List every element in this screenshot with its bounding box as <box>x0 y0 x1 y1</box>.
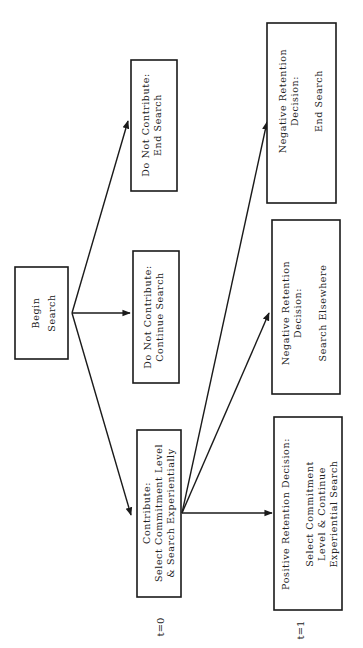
node-neg-retention-elsewhere: Negative Retention Decision: Search Else… <box>272 220 340 394</box>
node-neg-elsewhere-line-4: Search Elsewhere <box>317 265 328 362</box>
node-dnc-continue-line-2: Continue Search <box>154 272 165 362</box>
node-neg-elsewhere-line-2: Decision: <box>292 288 303 338</box>
edge-begin-to-dnc-end <box>72 121 128 313</box>
edge-contribute-to-neg-end <box>182 122 267 513</box>
node-contribute-line-3: & Search Experientially <box>165 448 176 577</box>
node-contribute-line-2: Select Commitment Level <box>153 444 164 582</box>
node-neg-retention-end: Negative Retention Decision: End Search <box>267 23 336 203</box>
node-contribute: Contribute: Select Commitment Level & Se… <box>137 430 181 597</box>
node-begin-search-line-2: Search <box>46 294 57 331</box>
node-dnc-continue-line-1: Do Not Contribute: <box>142 265 153 368</box>
node-dnc-end-line-1: Do Not Contribute: <box>140 73 151 176</box>
node-pos-retention-line-5: Experiential Search <box>328 460 339 567</box>
node-pos-retention-line-1: Positive Retention Decision: <box>280 438 291 590</box>
node-neg-end-line-4: End Search <box>313 70 324 132</box>
time-label-t0: t=0 <box>155 618 166 637</box>
time-label-t1: t=1 <box>295 621 306 640</box>
node-pos-retention-line-3: Select Commitment <box>304 461 315 567</box>
node-contribute-line-1: Contribute: <box>141 482 152 544</box>
node-neg-end-line-2: Decision: <box>289 76 300 126</box>
node-neg-end-line-1: Negative Retention <box>277 49 288 153</box>
node-neg-elsewhere-line-1: Negative Retention <box>280 261 291 365</box>
node-dnc-end-line-2: End Search <box>152 94 163 156</box>
edge-contribute-to-neg-elsewhere <box>182 313 269 513</box>
node-pos-retention-line-4: Level & Continue <box>316 467 327 561</box>
edge-begin-to-contribute <box>72 313 131 515</box>
decision-tree-diagram: Begin Search Do Not Contribute: End Sear… <box>0 0 363 648</box>
node-dnc-end-search: Do Not Contribute: End Search <box>131 60 177 191</box>
node-pos-retention: Positive Retention Decision: Select Comm… <box>274 417 342 610</box>
node-begin-search-line-1: Begin <box>30 298 41 329</box>
node-begin-search: Begin Search <box>15 267 68 359</box>
node-dnc-continue-search: Do Not Contribute: Continue Search <box>133 251 179 383</box>
